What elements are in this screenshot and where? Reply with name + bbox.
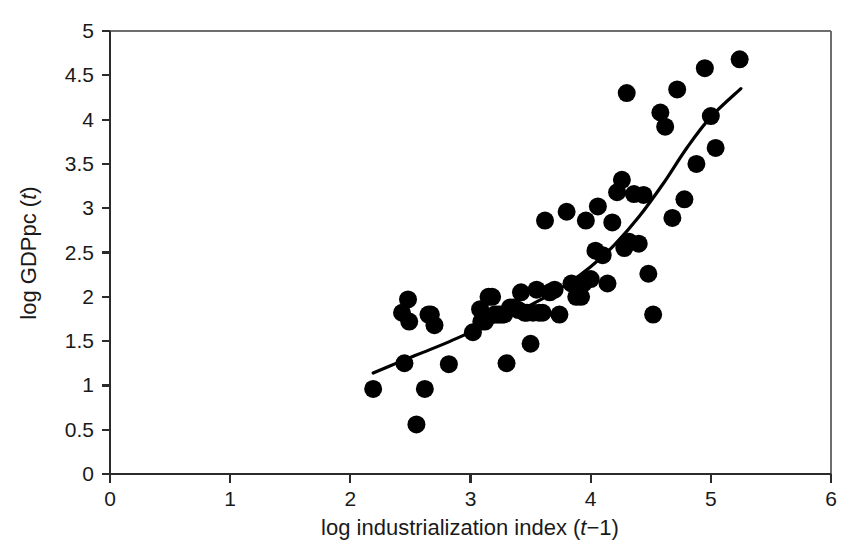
data-point [400,313,418,331]
data-point [364,380,382,398]
data-point [483,288,501,306]
x-tick-label: 3 [465,487,477,510]
y-axis-ticks: 00.511.522.533.544.55 [65,19,110,485]
data-point [618,84,636,102]
data-point [558,203,576,221]
y-tick-label: 0.5 [65,418,94,441]
x-tick-label: 2 [344,487,356,510]
data-point [639,265,657,283]
data-point [512,283,530,301]
chart-canvas: 00.511.522.533.544.55 0123456 log indust… [0,0,867,559]
data-point [534,304,552,322]
scatter-plot-figure: 00.511.522.533.544.55 0123456 log indust… [0,0,867,559]
data-point [416,380,434,398]
data-point [498,354,516,372]
y-tick-label: 4.5 [65,63,94,86]
data-point [395,354,413,372]
data-point [546,281,564,299]
y-tick-label: 1 [82,373,94,396]
y-tick-label: 4 [82,108,94,131]
data-point [707,139,725,157]
data-point [407,415,425,433]
data-point [687,155,705,173]
data-point [668,80,686,98]
data-point [675,190,693,208]
x-tick-label: 1 [224,487,236,510]
x-axis-ticks: 0123456 [104,474,837,510]
data-point [613,171,631,189]
data-point [644,306,662,324]
axes [110,31,831,474]
data-point [731,50,749,68]
y-tick-label: 3.5 [65,152,94,175]
x-tick-label: 4 [585,487,597,510]
data-point [598,275,616,293]
y-tick-label: 5 [82,19,94,42]
data-point [440,355,458,373]
y-axis-title: log GDPpc (t) [16,186,41,319]
y-tick-label: 2.5 [65,241,94,264]
y-tick-label: 3 [82,196,94,219]
data-point [577,212,595,230]
data-point [425,316,443,334]
data-point [399,290,417,308]
y-tick-label: 0 [82,462,94,485]
data-point [630,235,648,253]
plot-frame [110,31,831,474]
x-tick-label: 0 [104,487,116,510]
x-axis-title: log industrialization index (t−1) [321,515,619,540]
data-point [603,213,621,231]
y-tick-label: 1.5 [65,329,94,352]
x-tick-label: 5 [705,487,717,510]
data-point [589,197,607,215]
data-point [582,270,600,288]
data-point [594,246,612,264]
data-point [663,209,681,227]
data-point [635,186,653,204]
x-tick-label: 6 [825,487,837,510]
y-tick-label: 2 [82,285,94,308]
data-point [656,118,674,136]
data-points-group [364,50,748,433]
data-point [522,335,540,353]
data-point [696,59,714,77]
data-point [536,212,554,230]
data-point [702,107,720,125]
data-point [550,306,568,324]
